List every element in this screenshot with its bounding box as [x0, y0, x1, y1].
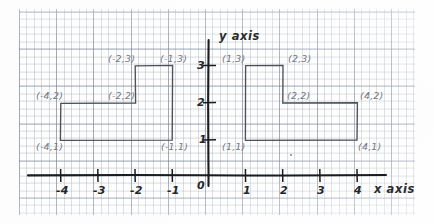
- vertex-label-minus2-3: (-2,3): [108, 54, 135, 64]
- x-tick-label-minus4: -4: [56, 185, 69, 196]
- vertex-label-2-2: (2,2): [287, 91, 311, 101]
- vertex-label-4-1: (4,1): [358, 142, 382, 152]
- y-tick-label-1: 1: [199, 134, 207, 145]
- x-tick-label-3: 3: [317, 185, 325, 196]
- stray-pencil-dot: [290, 154, 292, 156]
- vertex-label-minus1-3: (-1,3): [160, 54, 187, 64]
- vertex-label-minus2-2: (-2,2): [108, 91, 135, 101]
- x-axis-name: x axis: [374, 184, 415, 196]
- graph-paper-figure: (-2,3) (-1,3) (1,3) (2,3) (-4,2) (-2,2) …: [0, 0, 434, 224]
- x-tick-label-4: 4: [354, 185, 362, 196]
- polygon-left-l-shape: [60, 65, 172, 140]
- vertex-label-minus4-1: (-4,1): [36, 142, 63, 152]
- x-tick-label-minus2: -2: [130, 185, 143, 196]
- vertex-label-4-2: (4,2): [360, 91, 384, 101]
- y-axis-name: y axis: [219, 31, 260, 43]
- y-tick-label-3: 3: [197, 60, 205, 71]
- x-tick-label-2: 2: [280, 185, 288, 196]
- x-tick-label-minus3: -3: [93, 185, 106, 196]
- vertex-label-1-3: (1,3): [222, 54, 246, 64]
- x-axis-group: [28, 169, 386, 182]
- x-tick-label-1: 1: [243, 185, 251, 196]
- x-axis-line: [28, 175, 386, 176]
- origin-label: 0: [197, 180, 205, 191]
- polygon-right-l-shape: [245, 65, 357, 140]
- vertex-label-minus4-2: (-4,2): [36, 91, 63, 101]
- x-tick-label-minus1: -1: [167, 185, 180, 196]
- vertex-label-2-3: (2,3): [288, 54, 312, 64]
- y-tick-label-2: 2: [197, 97, 205, 108]
- vertex-label-minus1-1: (-1,1): [161, 142, 188, 152]
- vertex-label-1-1: (1,1): [222, 142, 246, 152]
